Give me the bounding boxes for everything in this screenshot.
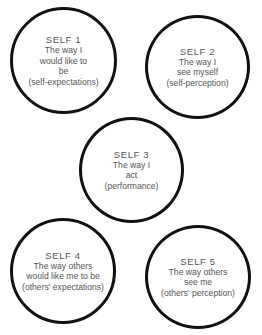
- circle-line: (self-expectations): [28, 77, 98, 88]
- circle-line: The way others: [34, 261, 93, 272]
- circle-line: The way others: [169, 267, 228, 278]
- circle-line: The way I: [113, 160, 150, 171]
- circle-self-2: SELF 2 The way I see myself (self-percep…: [145, 15, 250, 119]
- circle-line: The way I: [45, 45, 82, 56]
- circle-self-4: SELF 4 The way others would like me to b…: [10, 218, 116, 324]
- circle-self-5: SELF 5 The way others see me (others' pe…: [145, 225, 251, 329]
- circle-line: would like to: [40, 56, 87, 67]
- circle-line: be: [59, 66, 69, 77]
- circle-line: (others' expectations): [22, 282, 104, 293]
- circle-line: (others' perception): [161, 288, 235, 299]
- circle-line: The way I: [179, 57, 216, 68]
- circle-line: (performance): [105, 181, 159, 192]
- circle-line: (self-perception): [166, 78, 228, 89]
- circle-line: see me: [184, 277, 212, 288]
- circle-self-1: SELF 1 The way I would like to be (self-…: [10, 7, 117, 114]
- circle-title: SELF 5: [180, 256, 215, 267]
- circle-line: see myself: [177, 67, 218, 78]
- circle-title: SELF 3: [114, 149, 149, 160]
- circle-line: act: [126, 170, 137, 181]
- circle-line: would like me to be: [26, 271, 100, 282]
- circle-title: SELF 4: [45, 250, 80, 261]
- circle-self-3: SELF 3 The way I act (performance): [79, 117, 184, 223]
- circle-title: SELF 2: [180, 46, 215, 57]
- circle-title: SELF 1: [46, 34, 81, 45]
